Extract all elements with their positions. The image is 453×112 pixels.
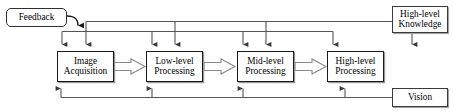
knowledge-bus-upper (86, 22, 412, 45)
node-low-level-processing-line2: Processing (154, 67, 194, 77)
node-high-level-knowledge-line2: Knowledge (399, 20, 442, 30)
node-mid-level-processing-line2: Processing (245, 67, 285, 77)
node-high-level-processing[interactable]: High-level Processing (327, 51, 384, 82)
vision-bus (61, 89, 392, 98)
node-image-acquisition[interactable]: Image Acquisition (57, 51, 114, 82)
node-mid-level-processing[interactable]: Mid-level Processing (237, 51, 294, 82)
node-vision[interactable]: Vision (392, 88, 448, 107)
node-vision-label: Vision (408, 93, 432, 103)
node-image-acquisition-line2: Acquisition (64, 67, 107, 77)
node-low-level-processing[interactable]: Low-level Processing (146, 51, 203, 82)
flow-arrow-acquisition-to-low (114, 59, 145, 74)
flow-arrow-mid-to-high (295, 59, 326, 74)
image-processing-flow-diagram: Feedback Image Acquisition Low-level Pro… (0, 0, 453, 112)
knowledge-bus-lower (62, 32, 333, 45)
feedback-curve-connector (67, 16, 78, 26)
node-feedback-label: Feedback (19, 13, 55, 23)
node-high-level-knowledge[interactable]: High-level Knowledge (392, 6, 448, 33)
node-high-level-processing-line2: Processing (335, 67, 375, 77)
flow-arrow-low-to-mid (204, 59, 235, 74)
node-feedback[interactable]: Feedback (6, 8, 67, 27)
